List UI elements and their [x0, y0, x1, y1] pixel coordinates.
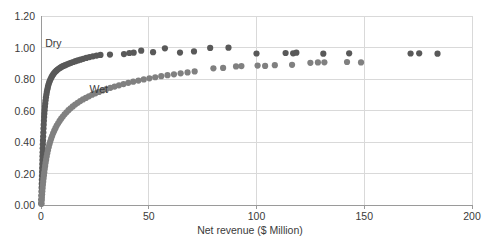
data-point [177, 49, 183, 55]
data-point [307, 60, 313, 66]
x-axis-tick-label: 200 [452, 211, 492, 222]
data-point [358, 59, 364, 65]
data-point [233, 63, 239, 69]
data-point [178, 70, 184, 76]
data-point [192, 68, 198, 74]
data-point [407, 50, 413, 56]
data-point [321, 59, 327, 65]
x-axis-tick-label: 150 [344, 211, 384, 222]
data-point [315, 59, 321, 65]
y-axis-tick-label: 1.00 [0, 43, 35, 54]
data-point [152, 74, 158, 80]
y-axis-tick-label: 0.00 [0, 200, 35, 211]
data-point [210, 65, 216, 71]
data-point [254, 63, 260, 69]
data-point [158, 73, 164, 79]
chart-plot-area [0, 0, 500, 242]
data-point [416, 50, 422, 56]
series-dry [38, 45, 441, 207]
data-point [191, 48, 197, 54]
data-point [130, 79, 136, 85]
x-axis-tick-label: 50 [129, 211, 169, 222]
data-point [138, 48, 144, 54]
data-point [225, 45, 231, 51]
data-point [121, 51, 127, 57]
x-axis-tick-label: 100 [237, 211, 277, 222]
data-point [150, 49, 156, 55]
data-point [220, 65, 226, 71]
data-point [141, 76, 147, 82]
y-axis-tick-label: 1.20 [0, 11, 35, 22]
data-point [171, 71, 177, 77]
series-wet [38, 59, 364, 207]
data-point [282, 50, 288, 56]
chart-container: 0.000.200.400.600.801.001.20 05010015020… [0, 0, 500, 242]
data-point [162, 45, 168, 51]
data-point [344, 59, 350, 65]
data-point [262, 63, 268, 69]
data-point [184, 69, 190, 75]
x-axis-title: Net revenue ($ Million) [150, 225, 350, 236]
data-point [346, 50, 352, 56]
data-series-group [38, 45, 441, 207]
data-point [135, 77, 141, 83]
y-axis-tick-label: 0.60 [0, 106, 35, 117]
data-point [434, 51, 440, 57]
data-point [146, 75, 152, 81]
data-point [238, 63, 244, 69]
data-point [131, 50, 137, 56]
y-axis-tick-label: 0.20 [0, 169, 35, 180]
data-point [293, 50, 299, 56]
data-point [253, 50, 259, 56]
annotation-wet: Wet [89, 84, 107, 95]
y-axis-tick-label: 0.80 [0, 74, 35, 85]
data-point [207, 45, 213, 51]
data-point [320, 51, 326, 57]
y-axis-tick-label: 0.40 [0, 137, 35, 148]
data-point [289, 62, 295, 68]
data-point [164, 72, 170, 78]
data-point [97, 52, 103, 58]
annotation-dry: Dry [45, 38, 61, 49]
gridlines-group [41, 16, 472, 205]
x-axis-tick-label: 0 [21, 211, 61, 222]
data-point [107, 51, 113, 57]
data-point [272, 62, 278, 68]
